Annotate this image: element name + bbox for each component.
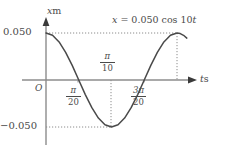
x-tick-label-pi-over-10: π 10: [100, 52, 115, 72]
equation-amplitude: 0.050: [131, 14, 158, 25]
x-tick-label-pi-over-20: π 20: [66, 86, 81, 106]
equation-annotation: x = 0.050 cos 10t: [112, 15, 196, 25]
fraction-denominator: 10: [100, 63, 115, 72]
y-tick-label-negative: −0.050: [0, 121, 37, 131]
equation-time-variable: t: [193, 14, 197, 25]
fraction-numerator: π: [66, 86, 81, 95]
x-axis-arrowhead: [188, 77, 197, 84]
y-axis-label: xm: [47, 6, 61, 16]
x-tick-label-three-pi-over-20: 3π 20: [131, 86, 146, 106]
y-tick-label-positive: 0.050: [3, 27, 32, 37]
fraction-denominator: 20: [66, 97, 81, 106]
fraction-denominator: 20: [131, 97, 146, 106]
equation-equals: =: [117, 14, 131, 25]
origin-label: O: [35, 84, 42, 93]
y-axis-arrowhead: [43, 17, 50, 26]
fraction-numerator: 3π: [131, 86, 146, 95]
equation-function: cos 10: [159, 14, 193, 25]
y-axis-unit: m: [52, 5, 61, 16]
displacement-time-graph-figure: xm ts 0.050 −0.050 O x = 0.050 cos 10t π…: [0, 0, 229, 150]
x-axis-label: ts: [200, 74, 209, 84]
fraction-numerator: π: [100, 52, 115, 61]
x-axis-unit: s: [204, 73, 209, 84]
